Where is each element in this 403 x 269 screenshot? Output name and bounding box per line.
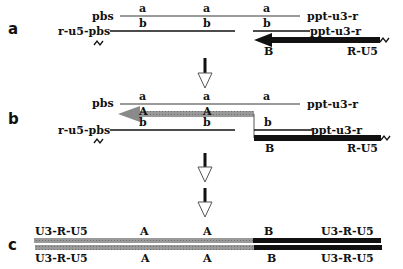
segment-label: b bbox=[263, 17, 271, 30]
plus-strand-dna bbox=[35, 245, 254, 250]
hollow-down-arrow-icon bbox=[198, 188, 212, 217]
ppt-u3-r-label: ppt-u3-r bbox=[307, 98, 358, 111]
segment-label: a bbox=[263, 2, 270, 15]
segment-label: a bbox=[139, 2, 146, 15]
hollow-down-arrow-icon bbox=[198, 153, 212, 182]
u3-r-u5-label: U3-R-U5 bbox=[35, 252, 88, 265]
segment-label: a bbox=[263, 90, 270, 103]
ppt-u3-r-label: ppt-u3-r bbox=[307, 10, 358, 23]
minus-strand-dna bbox=[254, 135, 381, 141]
segment-label: b bbox=[139, 116, 147, 129]
strand-label-B: B bbox=[265, 142, 274, 155]
segment-label: b bbox=[203, 17, 211, 30]
segment-label: a bbox=[203, 2, 210, 15]
region-label: A bbox=[202, 252, 212, 265]
region-label: A bbox=[202, 225, 212, 238]
segment-label: b bbox=[139, 17, 147, 30]
u3-r-u5-label: U3-R-U5 bbox=[35, 225, 88, 238]
break-icon bbox=[94, 139, 103, 143]
r-u5-pbs-label: r-u5-pbs bbox=[58, 25, 110, 38]
plus-strand-dna bbox=[135, 111, 254, 117]
region-label: B bbox=[264, 225, 273, 238]
break-icon bbox=[380, 38, 389, 42]
minus-strand-dna bbox=[253, 238, 381, 243]
arrowhead-left-icon bbox=[118, 106, 140, 122]
r-u5-label: R-U5 bbox=[347, 142, 378, 155]
r-u5-label: R-U5 bbox=[347, 45, 378, 58]
minus-strand-dna bbox=[254, 245, 382, 250]
retroviral-strand-transfer-diagram: a pbs a a a ppt-u3-r r-u5-pbs b b b ppt-… bbox=[0, 0, 403, 269]
panel-label-c: c bbox=[8, 236, 17, 254]
break-icon bbox=[94, 41, 103, 45]
break-icon bbox=[381, 136, 390, 140]
panel-label-b: b bbox=[8, 110, 19, 128]
region-label: B bbox=[267, 252, 276, 265]
panel-label-a: a bbox=[8, 20, 18, 38]
segment-label: a bbox=[139, 90, 146, 103]
region-label: A bbox=[139, 225, 149, 238]
pbs-label: pbs bbox=[92, 97, 114, 110]
segment-label: a bbox=[203, 90, 210, 103]
minus-strand-dna bbox=[268, 37, 380, 43]
plus-strand-dna bbox=[34, 238, 253, 243]
segment-label: b bbox=[203, 116, 211, 129]
ppt-u3-r-label: ppt-u3-r bbox=[310, 25, 361, 38]
region-label: A bbox=[140, 252, 150, 265]
pbs-label: pbs bbox=[92, 10, 114, 23]
hollow-down-arrow-icon bbox=[198, 58, 212, 88]
segment-label: b bbox=[264, 116, 272, 129]
u3-r-u5-label: U3-R-U5 bbox=[321, 252, 374, 265]
r-u5-pbs-label: r-u5-pbs bbox=[58, 124, 110, 137]
u3-r-u5-label: U3-R-U5 bbox=[321, 225, 374, 238]
strand-label-B: B bbox=[264, 45, 273, 58]
